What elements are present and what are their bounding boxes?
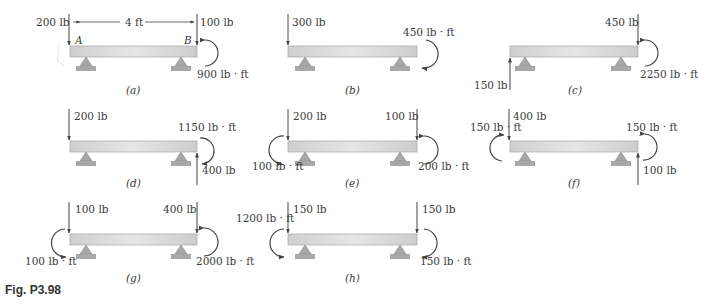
left-moment-arrow [490, 135, 504, 161]
left-force-label: 150 lb [293, 203, 327, 215]
support-right [171, 152, 191, 166]
support-left [76, 57, 96, 71]
left-moment-label: 100 lb · ft [252, 160, 304, 172]
support-left [515, 152, 535, 166]
moment-label: 2250 lb · ft [640, 68, 699, 80]
left-moment-arrow [270, 229, 284, 257]
case-caption: (a) [126, 84, 140, 96]
left-force-label: 100 lb [75, 203, 109, 215]
support-left [76, 152, 96, 166]
point-a-label: A [74, 34, 83, 46]
right-moment-label: 150 lb · ft [420, 255, 472, 267]
case-caption: (h) [345, 272, 360, 284]
beam-diagram: 200 lb 100 lb 4 ft A B 900 lb · ft (a) 3… [0, 0, 718, 304]
case-caption: (c) [568, 84, 582, 96]
point-b-label: B [183, 34, 192, 46]
case-caption: (f) [568, 177, 580, 189]
right-moment-arrow [643, 134, 657, 160]
right-force-label: 100 lb [200, 16, 234, 28]
moment-label: 900 lb · ft [197, 68, 249, 80]
moment-label: 450 lb · ft [403, 26, 455, 38]
figure-caption: Fig. P3.98 [5, 283, 61, 297]
sketch-mark [57, 45, 65, 66]
support-right [171, 57, 191, 71]
left-force-label: 300 lb [292, 16, 326, 28]
case-f: 400 lb 100 lb 150 lb · ft 150 lb · ft (f… [470, 109, 678, 189]
beam [70, 46, 197, 57]
support-right [390, 152, 410, 166]
case-d: 200 lb 400 lb 1150 lb · ft (d) [69, 109, 237, 189]
support-left [295, 57, 315, 71]
moment-arrow [205, 40, 218, 66]
moment-arrow [200, 138, 214, 164]
right-moment-arrow [204, 228, 218, 256]
beam [70, 141, 197, 152]
case-caption: (g) [126, 272, 141, 284]
moment-arrow [645, 40, 658, 66]
moment-label: 1150 lb · ft [178, 121, 237, 133]
support-right [390, 245, 410, 259]
left-force-label: 200 lb [293, 110, 327, 122]
beam [510, 46, 638, 57]
support-left [515, 57, 535, 71]
left-force-label: 200 lb [36, 16, 70, 28]
right-moment-arrow [422, 229, 437, 257]
left-moment-label: 1200 lb · ft [236, 212, 295, 224]
case-g: 100 lb 400 lb 100 lb · ft 2000 lb · ft (… [25, 202, 255, 284]
case-a: 200 lb 100 lb 4 ft A B 900 lb · ft (a) [36, 14, 249, 96]
case-b: 300 lb 450 lb · ft (b) [288, 14, 455, 96]
beam [288, 46, 417, 57]
case-c: 150 lb 450 lb 2250 lb · ft (c) [474, 14, 699, 96]
left-force-label: 200 lb [74, 110, 108, 122]
case-caption: (e) [345, 177, 359, 189]
case-h: 150 lb 150 lb 1200 lb · ft 150 lb · ft (… [236, 202, 472, 284]
right-force-label: 150 lb [422, 203, 456, 215]
dimension-label: 4 ft [125, 16, 144, 28]
support-right [611, 152, 631, 166]
right-moment-label: 200 lb · ft [418, 160, 470, 172]
right-force-label: 100 lb [385, 110, 419, 122]
right-moment-label: 150 lb · ft [626, 121, 678, 133]
support-right [390, 57, 410, 71]
left-moment-label: 150 lb · ft [470, 121, 522, 133]
case-caption: (b) [345, 84, 360, 96]
left-moment-arrow [51, 229, 66, 257]
left-moment-label: 100 lb · ft [25, 255, 77, 267]
moment-arrow [422, 40, 438, 68]
support-left [295, 245, 315, 259]
right-force-label: 450 lb [605, 16, 639, 28]
right-force-label: 100 lb [643, 164, 677, 176]
beam [288, 141, 417, 152]
right-moment-label: 2000 lb · ft [196, 255, 255, 267]
beam [288, 234, 417, 245]
right-force-label: 400 lb [163, 203, 197, 215]
support-right [611, 57, 631, 71]
right-force-label: 400 lb [202, 164, 236, 176]
beam [70, 234, 197, 245]
case-caption: (d) [126, 177, 141, 189]
beam [510, 141, 638, 152]
support-left [76, 245, 96, 259]
support-right [171, 245, 191, 259]
left-force-label: 150 lb [474, 79, 508, 91]
case-e: 200 lb 100 lb 100 lb · ft 200 lb · ft (e… [252, 109, 470, 189]
